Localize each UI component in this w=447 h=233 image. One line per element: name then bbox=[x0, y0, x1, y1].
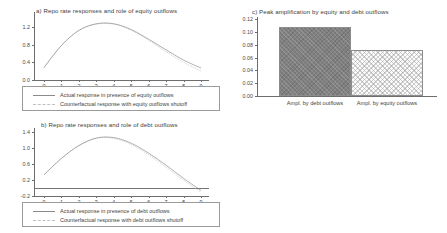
panel-c-y-axis bbox=[257, 17, 258, 96]
panel-c: c) Peak amplification by equity and debt… bbox=[225, 0, 447, 120]
y-tick bbox=[255, 58, 257, 59]
panel-a-plot-area: 0.00.40.81.20123456789 bbox=[34, 18, 209, 80]
legend-line-solid-icon bbox=[33, 211, 55, 212]
x-tick bbox=[61, 196, 62, 198]
panel-c-x-axis bbox=[257, 96, 437, 97]
x-tick bbox=[131, 196, 132, 198]
x-tick bbox=[149, 196, 150, 198]
x-tick bbox=[79, 80, 80, 82]
y-tick bbox=[32, 62, 34, 63]
x-tick bbox=[96, 196, 97, 198]
x-tick bbox=[96, 80, 97, 82]
y-tick bbox=[255, 83, 257, 84]
x-tick bbox=[166, 196, 167, 198]
x-tick bbox=[79, 196, 80, 198]
panel-a: a) Repo rate responses and role of equit… bbox=[0, 0, 225, 116]
legend-line-dashed-icon bbox=[33, 220, 55, 221]
panel-b-plot-area: -0.20.20.61.01.40123456789 bbox=[34, 132, 209, 196]
y-tick-label: 1.2 bbox=[8, 24, 30, 30]
y-tick-label: 0.10 bbox=[229, 29, 253, 35]
y-tick bbox=[32, 45, 34, 46]
x-tick bbox=[44, 196, 45, 198]
y-tick bbox=[32, 148, 34, 149]
y-tick-label: 0.02 bbox=[229, 80, 253, 86]
category-label-equity: Ampl. by equity outflows bbox=[337, 100, 437, 106]
y-tick-label: 0.4 bbox=[8, 59, 30, 65]
panel-c-title: c) Peak amplification by equity and debt… bbox=[252, 8, 389, 15]
y-tick-label: 0.12 bbox=[229, 16, 253, 22]
x-tick bbox=[114, 80, 115, 82]
x-tick bbox=[61, 80, 62, 82]
bar-debt-outflows bbox=[279, 27, 351, 96]
y-tick bbox=[32, 180, 34, 181]
legend-label-actual: Actual response in presence of debt outf… bbox=[60, 208, 169, 214]
y-tick-label: 0.0 bbox=[8, 77, 30, 83]
y-tick-label: 0.8 bbox=[8, 42, 30, 48]
y-tick-label: 0.06 bbox=[229, 55, 253, 61]
y-tick-label: 0.04 bbox=[229, 67, 253, 73]
x-tick bbox=[184, 196, 185, 198]
y-tick-label: 0.00 bbox=[229, 93, 253, 99]
y-tick-label: -0.2 bbox=[8, 193, 30, 199]
panel-b-legend: Actual response in presence of debt outf… bbox=[22, 202, 220, 227]
y-tick bbox=[255, 45, 257, 46]
x-tick bbox=[166, 80, 167, 82]
x-tick bbox=[201, 80, 202, 82]
legend-label-actual: Actual response in presence of equity ou… bbox=[60, 92, 173, 98]
y-tick-label: 0.2 bbox=[8, 177, 30, 183]
bar-equity-outflows bbox=[351, 50, 423, 96]
y-tick-label: 1.0 bbox=[8, 145, 30, 151]
legend-label-counterfactual: Counterfactual response with equity outf… bbox=[60, 101, 187, 107]
legend-item-actual: Actual response in presence of debt outf… bbox=[33, 208, 169, 214]
legend-item-actual: Actual response in presence of equity ou… bbox=[33, 92, 173, 98]
panel-c-plot-area: 0.000.020.040.060.080.100.12 bbox=[257, 19, 432, 96]
panel-b-curves bbox=[34, 132, 209, 196]
figure-panels: a) Repo rate responses and role of equit… bbox=[0, 0, 447, 233]
y-tick bbox=[32, 27, 34, 28]
y-tick bbox=[32, 132, 34, 133]
y-tick-label: 0.6 bbox=[8, 161, 30, 167]
legend-line-solid-icon bbox=[33, 95, 55, 96]
y-tick bbox=[255, 96, 257, 97]
x-tick bbox=[44, 80, 45, 82]
x-tick bbox=[184, 80, 185, 82]
legend-line-dashed-icon bbox=[33, 104, 55, 105]
panel-a-curves bbox=[34, 18, 209, 80]
panel-a-title: a) Repo rate responses and role of equit… bbox=[36, 7, 177, 14]
legend-item-counterfactual: Counterfactual response with debt outflo… bbox=[33, 217, 183, 223]
y-tick bbox=[32, 164, 34, 165]
panel-b: b) Repo rate responses and role of debt … bbox=[0, 116, 225, 233]
y-tick bbox=[255, 19, 257, 20]
legend-label-counterfactual: Counterfactual response with debt outflo… bbox=[60, 217, 183, 223]
panel-a-legend: Actual response in presence of equity ou… bbox=[22, 86, 220, 111]
x-tick bbox=[201, 196, 202, 198]
legend-item-counterfactual: Counterfactual response with equity outf… bbox=[33, 101, 187, 107]
y-tick-label: 0.08 bbox=[229, 42, 253, 48]
panel-b-title: b) Repo rate responses and role of debt … bbox=[41, 121, 178, 128]
y-tick bbox=[255, 32, 257, 33]
y-tick-label: 1.4 bbox=[8, 129, 30, 135]
y-tick bbox=[32, 196, 34, 197]
x-tick bbox=[149, 80, 150, 82]
y-tick bbox=[32, 80, 34, 81]
x-tick bbox=[131, 80, 132, 82]
y-tick bbox=[255, 70, 257, 71]
x-tick bbox=[114, 196, 115, 198]
